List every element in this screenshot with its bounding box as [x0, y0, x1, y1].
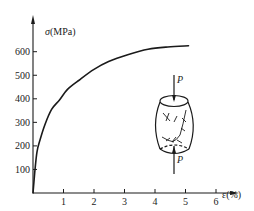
- x-tick-label: 6: [214, 196, 219, 207]
- y-axis-title: σ(MPa): [45, 26, 76, 38]
- y-tick-label: 600: [15, 46, 30, 57]
- x-tick-label: 4: [153, 196, 158, 207]
- bottom-arrowhead-icon: [172, 146, 176, 153]
- x-ticks: [64, 189, 217, 193]
- x-tick-label: 1: [61, 196, 66, 207]
- bottom-load-label: P: [176, 154, 183, 165]
- stress-strain-curve: [33, 46, 189, 193]
- y-tick-label: 100: [15, 164, 30, 175]
- x-tick-label: 3: [122, 196, 127, 207]
- y-axis-arrow-icon: [31, 15, 35, 24]
- y-tick-label: 400: [15, 93, 30, 104]
- x-axis-unit: (%): [226, 189, 241, 201]
- x-tick-label: 5: [183, 196, 188, 207]
- top-load-label: P: [176, 74, 183, 85]
- x-tick-label: 2: [92, 196, 97, 207]
- y-tick-label: 300: [15, 117, 30, 128]
- y-axis-unit: (MPa): [50, 26, 76, 38]
- x-tick-labels: 123456: [61, 196, 219, 207]
- specimen-inset: [156, 75, 194, 174]
- y-tick-label: 500: [15, 70, 30, 81]
- stress-strain-chart: 100200300400500600 123456 σ(MPa) ε(%) P …: [0, 0, 254, 211]
- crack-lines: [162, 110, 186, 143]
- y-tick-label: 200: [15, 140, 30, 151]
- axes: [33, 20, 234, 193]
- specimen-right-side: [188, 102, 193, 149]
- y-tick-labels: 100200300400500600: [15, 46, 30, 175]
- x-axis-title: ε(%): [222, 189, 241, 201]
- specimen-left-side: [156, 102, 161, 149]
